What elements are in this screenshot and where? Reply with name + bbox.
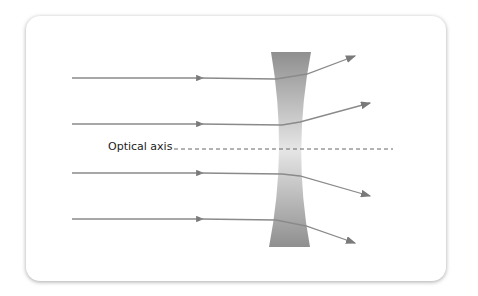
ray-1 — [72, 56, 355, 79]
lens-diagram — [0, 0, 478, 296]
ray-3 — [72, 173, 370, 196]
ray-2 — [72, 103, 370, 125]
optical-axis-label: Optical axis — [108, 140, 172, 153]
ray-4 — [72, 219, 355, 243]
